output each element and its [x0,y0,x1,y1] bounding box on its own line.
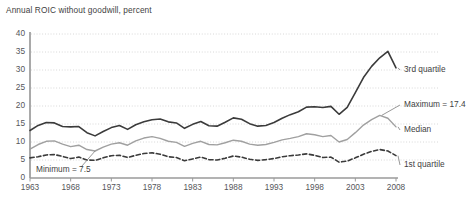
y-axis-tick-labels: 0510152025303540 [16,28,26,182]
data-series-lines [30,51,396,162]
y-axis-tick-label: 15 [16,118,26,128]
y-axis-tick-label: 20 [16,100,26,110]
x-axis-tick-label: 1983 [183,182,202,192]
y-axis-tick-label: 10 [16,136,26,146]
x-axis-tick-label: 1978 [143,182,162,192]
y-axis-tick-label: 30 [16,64,26,74]
x-axis-tick-label: 1973 [102,182,121,192]
x-axis-tick-label: 1963 [21,182,40,192]
x-axis-tick-label: 1968 [61,182,80,192]
chart-container: Annual ROIC without goodwill, percent 05… [0,0,469,213]
x-axis-tick-label: 1988 [224,182,243,192]
label-median: Median [404,124,432,134]
gridlines [31,34,438,160]
series-line-median [30,115,396,151]
label-3rd-quartile: 3rd quartile [404,64,446,74]
y-axis-tick-label: 25 [16,82,26,92]
series-line-3rd-quartile [30,51,396,136]
label-1st-quartile: 1st quartile [404,159,445,169]
x-axis-tick-label: 1998 [305,182,324,192]
x-axis-tick-label: 1993 [265,182,284,192]
series-inline-labels: 3rd quartileMaximum = 17.4Median1st quar… [404,64,466,169]
chart-plot-area: 0510152025303540 19631968197319781983198… [0,0,469,213]
leader-line [382,105,400,115]
label-maximum: Maximum = 17.4 [404,99,466,109]
y-axis-tick-label: 35 [16,46,26,56]
minimum-annotation: Minimum = 7.5 [36,164,91,174]
x-axis-tick-labels: 1963196819731978198319881993199820032008 [21,182,406,192]
y-axis-tick-label: 40 [16,28,26,38]
y-axis-tick-label: 0 [20,172,25,182]
x-axis-tick-label: 2003 [346,182,365,192]
x-axis-tick-label: 2008 [387,182,406,192]
y-axis-tick-label: 5 [20,154,25,164]
leader-line [398,127,400,130]
